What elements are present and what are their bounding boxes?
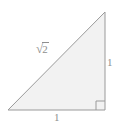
triangle-svg bbox=[0, 0, 119, 125]
triangle-shape bbox=[8, 12, 105, 110]
right-triangle-figure: 1 1 √2 bbox=[0, 0, 119, 125]
horizontal-leg-label: 1 bbox=[54, 112, 60, 123]
hypotenuse-label: √2 bbox=[36, 42, 49, 56]
radical-expression: √2 bbox=[36, 42, 49, 56]
radicand-value: 2 bbox=[42, 42, 49, 56]
vertical-leg-label: 1 bbox=[107, 57, 113, 68]
